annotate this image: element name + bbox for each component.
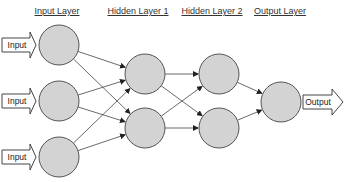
connection-edge bbox=[237, 110, 261, 120]
neuron-node bbox=[199, 54, 239, 94]
neuron-node bbox=[125, 54, 165, 94]
connection-edge bbox=[237, 82, 262, 93]
neuron-node bbox=[39, 137, 79, 177]
neuron-node bbox=[261, 82, 301, 122]
input-arrow-label: Input bbox=[8, 96, 28, 106]
nodes bbox=[39, 25, 301, 177]
connection-edge bbox=[78, 80, 125, 95]
neuron-node bbox=[39, 81, 79, 121]
connection-edge bbox=[78, 51, 125, 67]
output-arrow-label: Output bbox=[305, 97, 331, 107]
neuron-node bbox=[125, 108, 165, 148]
connection-edge bbox=[161, 86, 202, 116]
connection-edge bbox=[73, 89, 129, 144]
input-arrow-label: Input bbox=[8, 152, 28, 162]
neuron-node bbox=[39, 25, 79, 65]
connection-edge bbox=[78, 135, 125, 151]
connection-edge bbox=[78, 107, 125, 122]
connection-edge bbox=[161, 86, 202, 116]
connection-edge bbox=[73, 59, 129, 114]
network-diagram: InputInputInputOutput bbox=[0, 0, 347, 182]
input-arrow-label: Input bbox=[8, 40, 28, 50]
neuron-node bbox=[199, 108, 239, 148]
